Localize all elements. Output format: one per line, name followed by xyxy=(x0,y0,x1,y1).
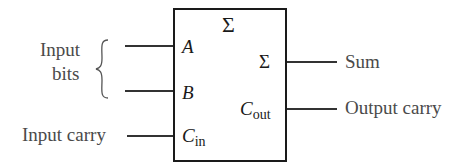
output-carry-label: Output carry xyxy=(345,98,442,117)
pin-cout: Cout xyxy=(240,99,271,122)
input-bits-label-line2: bits xyxy=(52,64,79,83)
wire-a xyxy=(125,45,173,47)
sum-label: Sum xyxy=(345,52,380,71)
input-carry-label: Input carry xyxy=(22,125,106,144)
curly-brace-icon xyxy=(94,38,114,100)
input-bits-label-line1: Input xyxy=(40,40,80,59)
wire-cin xyxy=(127,135,173,137)
wire-b xyxy=(125,90,173,92)
pin-cin: Cin xyxy=(182,126,206,149)
wire-sum xyxy=(287,61,337,63)
pin-sum: Σ xyxy=(259,52,270,71)
block-title-sigma: Σ xyxy=(222,14,235,36)
pin-b: B xyxy=(182,83,194,102)
wire-cout xyxy=(287,108,337,110)
pin-a: A xyxy=(182,37,194,56)
